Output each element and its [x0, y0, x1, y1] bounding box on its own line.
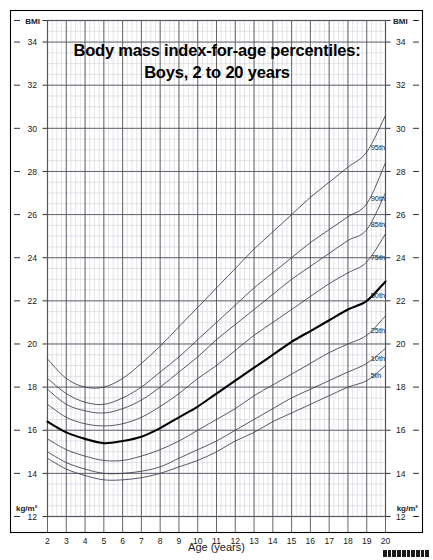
y-tick-label: 26 — [396, 210, 406, 220]
y-tick-label: 32 — [27, 80, 37, 90]
barcode-bar — [383, 550, 387, 557]
y-tick-label: 28 — [396, 167, 406, 177]
percentile-label-85th: 85th — [371, 220, 385, 229]
y-tick-label: 32 — [396, 80, 406, 90]
y-tick-label: 34 — [27, 37, 37, 47]
y-tick-label: 18 — [27, 382, 37, 392]
y-tick-label: 24 — [396, 253, 406, 263]
y-tick-label: 16 — [27, 425, 37, 435]
y-tick-label: 14 — [396, 469, 406, 479]
y-axis-unit-label-top-left: BMI — [25, 17, 40, 26]
y-tick-label: 16 — [396, 425, 406, 435]
corner-unit-labels: BMIBMIkg/m²kg/m² — [16, 17, 418, 513]
barcode-bar — [421, 550, 425, 557]
y-tick-label: 12 — [396, 512, 406, 522]
y-axis-unit-label-top-right: BMI — [393, 17, 408, 26]
y-tick-label: 22 — [396, 296, 406, 306]
percentile-label-75th: 75th — [371, 253, 385, 262]
percentile-label-95th: 95th — [371, 143, 385, 152]
major-gridlines — [14, 21, 419, 533]
percentile-label-25th: 25th — [371, 326, 385, 335]
barcode-bar — [392, 550, 396, 557]
y-axis-unit-label-bottom-left: kg/m² — [16, 504, 38, 513]
y-tick-label: 12 — [27, 512, 37, 522]
y-tick-label: 18 — [396, 382, 406, 392]
x-axis-title: Age (years) — [0, 541, 433, 553]
bmi-growth-chart: 1212141416161818202022222424262628283030… — [0, 0, 433, 560]
y-tick-label: 20 — [27, 339, 37, 349]
y-tick-label: 28 — [27, 167, 37, 177]
y-tick-label: 34 — [396, 37, 406, 47]
percentile-labels: 95th90th85th75th50th25th10th5th — [371, 143, 385, 381]
barcode-mark — [383, 550, 429, 557]
barcode-bar — [416, 550, 420, 557]
percentile-label-5th: 5th — [371, 371, 381, 380]
y-tick-label: 22 — [27, 296, 37, 306]
percentile-label-50th: 50th — [371, 291, 385, 300]
barcode-bar — [397, 550, 401, 557]
y-axis-unit-label-bottom-right: kg/m² — [397, 504, 419, 513]
barcode-bar — [402, 550, 406, 557]
y-tick-label: 30 — [27, 124, 37, 134]
barcode-bar — [411, 550, 415, 557]
y-tick-label: 20 — [396, 339, 406, 349]
percentile-label-90th: 90th — [371, 194, 385, 203]
y-tick-label: 26 — [27, 210, 37, 220]
barcode-bar — [388, 550, 392, 557]
y-tick-label: 14 — [27, 469, 37, 479]
percentile-label-10th: 10th — [371, 354, 385, 363]
y-tick-label: 30 — [396, 124, 406, 134]
barcode-bar — [425, 550, 429, 557]
barcode-bar — [407, 550, 411, 557]
chart-canvas: 1212141416161818202022222424262628283030… — [0, 0, 433, 560]
y-tick-label: 24 — [27, 253, 37, 263]
